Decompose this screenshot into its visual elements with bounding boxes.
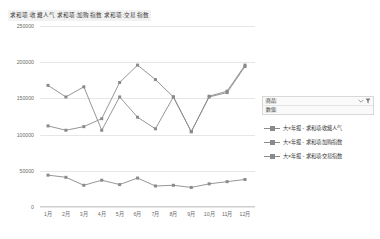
- series-lines: [40, 26, 255, 207]
- funnel-icon: [365, 98, 371, 104]
- data-point[interactable]: [47, 124, 50, 127]
- data-point[interactable]: [244, 178, 247, 181]
- data-point[interactable]: [154, 127, 157, 130]
- series-3: [47, 174, 247, 189]
- filter-header[interactable]: 商品 数值: [262, 96, 374, 115]
- series-1: [47, 64, 247, 134]
- x-tick-label: 6月: [134, 210, 142, 218]
- chart-title: 求和项:收藏人气 求和项:加购指数 求和项:交易指数: [8, 10, 151, 21]
- y-axis: 050000100000150000200000250000: [0, 26, 38, 207]
- y-tick-label: 200000: [17, 59, 34, 65]
- data-point[interactable]: [47, 174, 50, 177]
- filter-label-product: 商品: [265, 98, 277, 104]
- x-tick-label: 12月: [240, 210, 251, 218]
- filter-funnel-icon[interactable]: [358, 98, 371, 104]
- filter-row-value[interactable]: 数值: [263, 106, 373, 114]
- filter-label-value: 数值: [265, 107, 277, 113]
- x-tick-label: 2月: [62, 210, 70, 218]
- data-point[interactable]: [136, 64, 139, 67]
- data-point[interactable]: [136, 116, 139, 119]
- data-point[interactable]: [100, 179, 103, 182]
- data-point[interactable]: [82, 85, 85, 88]
- series-line: [48, 175, 245, 187]
- x-tick-label: 7月: [152, 210, 160, 218]
- data-point[interactable]: [190, 186, 193, 189]
- filter-row-product[interactable]: 商品: [263, 97, 373, 106]
- plot-area: [40, 26, 255, 207]
- legend-items: 大×年报 - 求和项:收藏人气大×年报 - 求和项:加购指数大×年报 - 求和项…: [262, 121, 374, 163]
- legend-label: 大×年报 - 求和项:加购指数: [283, 139, 342, 146]
- data-point[interactable]: [136, 177, 139, 180]
- series-line: [48, 65, 245, 132]
- x-axis: 1月2月3月4月5月6月7月8月9月10月11月12月: [40, 210, 255, 224]
- legend-item[interactable]: 大×年报 - 求和项:交易指数: [264, 149, 374, 163]
- data-point[interactable]: [100, 117, 103, 120]
- x-tick-label: 11月: [222, 210, 232, 218]
- series-line: [48, 65, 245, 132]
- legend-marker-icon: [264, 153, 280, 160]
- x-tick-label: 10月: [204, 210, 215, 218]
- data-point[interactable]: [172, 95, 175, 98]
- data-point[interactable]: [82, 125, 85, 128]
- x-tick-label: 8月: [169, 210, 177, 218]
- y-tick-label: 100000: [17, 132, 34, 138]
- data-point[interactable]: [190, 130, 193, 133]
- data-point[interactable]: [226, 180, 229, 183]
- data-point[interactable]: [226, 91, 229, 94]
- legend-label: 大×年报 - 求和项:交易指数: [283, 153, 342, 160]
- gridline: [40, 207, 255, 208]
- x-tick-label: 5月: [116, 210, 124, 218]
- legend-label: 大×年报 - 求和项:收藏人气: [283, 125, 342, 132]
- chevron-down-icon: [358, 98, 364, 104]
- data-point[interactable]: [118, 95, 121, 98]
- data-point[interactable]: [172, 184, 175, 187]
- chart-screenshot: 求和项:收藏人气 求和项:加购指数 求和项:交易指数 0500001000001…: [0, 0, 380, 239]
- y-tick-label: 250000: [17, 23, 34, 29]
- data-point[interactable]: [47, 84, 50, 87]
- data-point[interactable]: [244, 65, 247, 68]
- data-point[interactable]: [100, 129, 103, 132]
- data-point[interactable]: [208, 182, 211, 185]
- data-point[interactable]: [82, 184, 85, 187]
- x-tick-label: 4月: [98, 210, 106, 218]
- legend-item[interactable]: 大×年报 - 求和项:收藏人气: [264, 121, 374, 135]
- data-point[interactable]: [208, 95, 211, 98]
- legend-item[interactable]: 大×年报 - 求和项:加购指数: [264, 135, 374, 149]
- data-point[interactable]: [64, 129, 67, 132]
- legend-marker-icon: [264, 125, 280, 132]
- y-tick-label: 50000: [20, 168, 34, 174]
- y-tick-label: 0: [31, 204, 34, 210]
- data-point[interactable]: [118, 183, 121, 186]
- data-point[interactable]: [64, 176, 67, 179]
- y-tick-label: 150000: [17, 95, 34, 101]
- x-tick-label: 9月: [187, 210, 195, 218]
- data-point[interactable]: [118, 81, 121, 84]
- x-tick-label: 3月: [80, 210, 88, 218]
- legend-marker-icon: [264, 139, 280, 146]
- data-point[interactable]: [64, 95, 67, 98]
- data-point[interactable]: [154, 78, 157, 81]
- legend-panel: 商品 数值 大×年报 - 求和项:收藏人气大×年报 - 求和项:加购指数大×年报…: [262, 96, 374, 163]
- data-point[interactable]: [154, 185, 157, 188]
- x-tick-label: 1月: [44, 210, 52, 218]
